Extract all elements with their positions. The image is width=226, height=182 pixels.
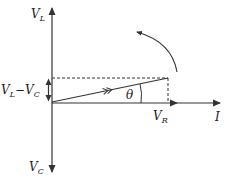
vc-label: VC xyxy=(29,160,44,176)
current-label: I xyxy=(214,110,220,124)
double-chevron-icon xyxy=(102,87,112,95)
rotation-direction-arrow xyxy=(137,32,177,72)
resultant-phasor xyxy=(52,78,168,102)
vl-label: VL xyxy=(31,7,45,23)
vl-minus-vc-up-arrowhead-icon xyxy=(46,79,52,86)
theta-angle-arc xyxy=(140,84,142,103)
vl-minus-vc-down-arrowhead-icon xyxy=(46,95,52,102)
vr-label: VR xyxy=(153,109,168,125)
theta-label: θ xyxy=(126,88,134,102)
vr-arrowhead-icon xyxy=(170,100,178,107)
phasor-diagram: θ VL VL−VC VR I VC xyxy=(0,0,226,182)
vl-minus-vc-label: VL−VC xyxy=(1,83,40,99)
